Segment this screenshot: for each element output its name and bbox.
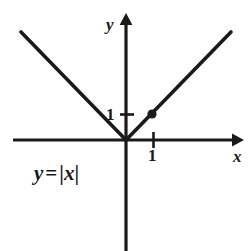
x-axis-arrowhead (232, 134, 244, 147)
plot-canvas (0, 0, 252, 251)
y-axis (120, 13, 133, 251)
curve-right-branch (126, 32, 231, 140)
absolute-value-graph-figure: y x 1 1 y=|x| (0, 0, 252, 251)
y-axis-arrowhead (120, 13, 133, 25)
equation-abs-close: | (74, 161, 79, 185)
x-axis-tick-label-1: 1 (148, 147, 157, 164)
equation-operator: = (43, 161, 59, 185)
equation-rhs-variable: x (64, 161, 75, 185)
y-axis-label: y (106, 16, 114, 33)
data-point-marker (147, 109, 156, 118)
y-axis-tick-label-1: 1 (106, 106, 115, 123)
equation-annotation: y=|x| (34, 163, 79, 184)
x-axis-label: x (233, 148, 242, 165)
equation-lhs: y (34, 161, 43, 185)
